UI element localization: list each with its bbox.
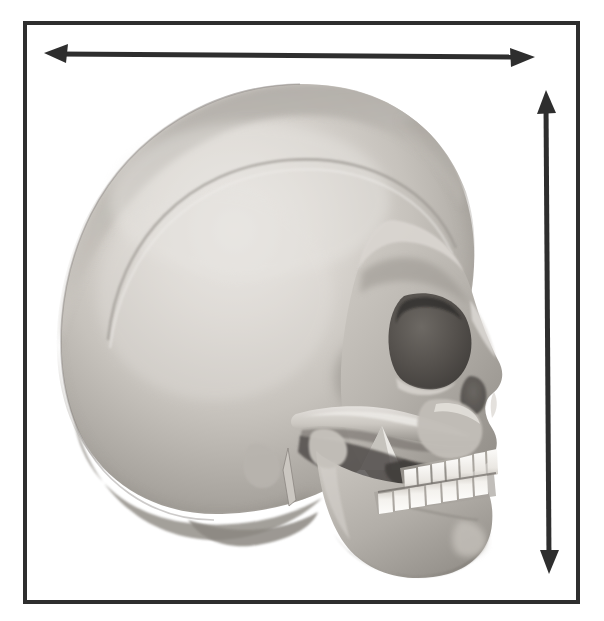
arrowhead-up — [537, 90, 556, 114]
lower-tooth — [458, 477, 473, 499]
arrowhead-left — [44, 44, 68, 63]
lower-tooth — [410, 486, 425, 508]
anterior-nasal-spine — [491, 392, 497, 418]
skull-diagram-svg — [0, 0, 604, 621]
lower-tooth — [426, 483, 441, 505]
upper-tooth — [487, 449, 498, 476]
figure-root: Human skull, lateral (side) view with di… — [0, 0, 604, 621]
vertical-dimension-arrow — [537, 90, 559, 574]
human-skull-lateral — [40, 84, 502, 578]
lower-tooth — [378, 492, 393, 514]
lower-tooth — [474, 474, 488, 496]
horizontal-dimension-arrow — [44, 44, 535, 67]
lower-tooth — [394, 489, 409, 511]
vault-core-highlight — [97, 189, 333, 401]
lower-tooth — [442, 480, 457, 502]
arrowhead-right — [510, 48, 535, 67]
arrowhead-down — [540, 550, 559, 574]
